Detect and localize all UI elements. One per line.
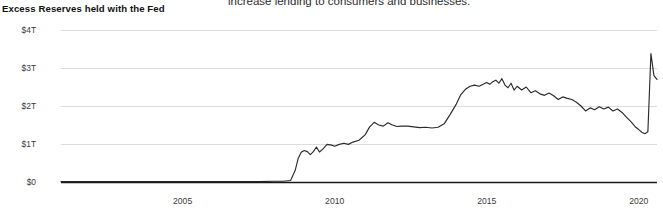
x-tick-label-2005: 2005 [153, 196, 213, 206]
chart-page: increase lending to consumers and busine… [0, 0, 663, 214]
x-tick-label-2015: 2015 [457, 196, 517, 206]
x-tick-label-2020: 2020 [609, 196, 663, 206]
series-line-excess-reserves [61, 54, 657, 182]
y-tick-label-2T: $2T [2, 101, 36, 111]
chart-plot-area: $0$1T$2T$3T$4T 2005201020152020 [0, 0, 663, 214]
gridlines [61, 31, 657, 145]
y-tick-label-1T: $1T [2, 139, 36, 149]
x-tick-label-2010: 2010 [305, 196, 365, 206]
line-chart-svg [0, 0, 663, 214]
y-tick-label-0: $0 [2, 177, 36, 187]
y-tick-label-4T: $4T [2, 25, 36, 35]
y-tick-label-3T: $3T [2, 63, 36, 73]
